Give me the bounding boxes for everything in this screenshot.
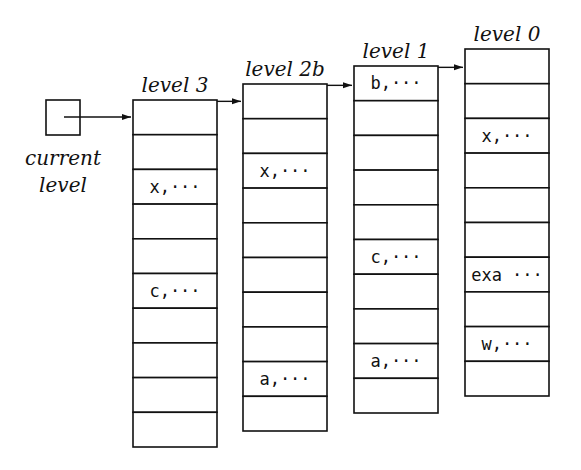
level-title: level 1 bbox=[363, 39, 430, 63]
slot-cell bbox=[243, 292, 327, 327]
slot-entry: exa ··· bbox=[471, 265, 543, 285]
slot-entry: x,··· bbox=[259, 161, 310, 181]
slot-cell bbox=[243, 396, 327, 431]
slot-cell bbox=[243, 188, 327, 223]
pointer-label-line1: current bbox=[25, 146, 102, 170]
slot-cell bbox=[354, 135, 438, 170]
level-column: level 1b,···c,···a,··· bbox=[354, 39, 463, 413]
slot-cell bbox=[354, 309, 438, 344]
slot-cell bbox=[354, 378, 438, 413]
slot-cell bbox=[133, 412, 217, 447]
slot-cell bbox=[354, 205, 438, 240]
slot-cell bbox=[133, 100, 217, 135]
slot-cell bbox=[465, 188, 549, 223]
slot-cell bbox=[133, 204, 217, 239]
level-title: level 0 bbox=[474, 22, 541, 46]
slot-entry: c,··· bbox=[149, 281, 200, 301]
slot-cell bbox=[133, 308, 217, 343]
slot-cell bbox=[354, 101, 438, 136]
slot-cell bbox=[465, 223, 549, 258]
slot-cell bbox=[465, 153, 549, 188]
slot-cell bbox=[133, 239, 217, 274]
slot-entry: x,··· bbox=[481, 126, 532, 146]
level-chain-diagram: current level level 3x,···c,···level 2bx… bbox=[0, 0, 581, 470]
slot-cell bbox=[354, 170, 438, 205]
slot-cell bbox=[243, 84, 327, 119]
slot-cell bbox=[243, 327, 327, 362]
level-title: level 2b bbox=[245, 57, 325, 81]
slot-cell bbox=[133, 343, 217, 378]
slot-entry: b,··· bbox=[370, 73, 421, 93]
slot-entry: c,··· bbox=[370, 247, 421, 267]
slot-cell bbox=[133, 378, 217, 413]
level-column: level 0x,···exa ···w,··· bbox=[465, 22, 549, 396]
level-title: level 3 bbox=[142, 73, 209, 97]
slot-cell bbox=[243, 258, 327, 293]
slot-entry: a,··· bbox=[370, 351, 421, 371]
level-column: level 2bx,···a,··· bbox=[243, 57, 352, 431]
slot-cell bbox=[354, 274, 438, 309]
slot-cell bbox=[465, 84, 549, 119]
level-column: level 3x,···c,··· bbox=[133, 73, 241, 447]
slot-cell bbox=[133, 135, 217, 170]
slot-entry: x,··· bbox=[149, 177, 200, 197]
slot-cell bbox=[465, 49, 549, 84]
slot-cell bbox=[243, 223, 327, 258]
slot-entry: a,··· bbox=[259, 369, 310, 389]
slot-cell bbox=[465, 361, 549, 396]
slot-cell bbox=[465, 292, 549, 327]
pointer-label-line2: level bbox=[39, 173, 87, 197]
current-level-pointer: current level bbox=[25, 100, 131, 197]
slot-entry: w,··· bbox=[481, 334, 532, 354]
slot-cell bbox=[243, 119, 327, 154]
